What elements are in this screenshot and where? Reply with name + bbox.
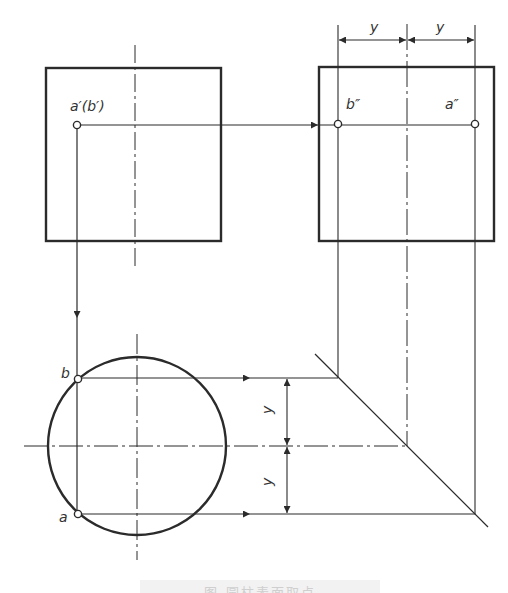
miter-line-45deg — [315, 354, 488, 527]
label-b-double-prime: b″ — [346, 96, 361, 112]
point-b-double-prime — [334, 120, 341, 127]
point-b — [74, 375, 81, 382]
front-view-outline — [46, 68, 221, 241]
label-dim-vert-upper: y — [259, 405, 275, 415]
label-b: b — [61, 365, 70, 381]
label-dim-vert-lower: y — [259, 477, 275, 487]
label-a-prime-b-prime: a′(b′) — [70, 98, 105, 114]
point-a — [74, 510, 81, 517]
point-a-prime-b-prime — [73, 121, 80, 128]
label-dim-top-right: y — [435, 19, 445, 35]
label-dim-top-left: y — [369, 19, 379, 35]
figure-caption-partial: 图 圆柱表面取点 — [140, 580, 380, 593]
label-a: a — [59, 509, 68, 525]
front-view — [46, 45, 221, 266]
point-a-double-prime — [471, 120, 478, 127]
label-a-double-prime: a″ — [445, 96, 460, 112]
top-view — [24, 334, 405, 560]
orthographic-projection-drawing: a′(b′) b″ a″ b a y y y y — [0, 0, 508, 593]
